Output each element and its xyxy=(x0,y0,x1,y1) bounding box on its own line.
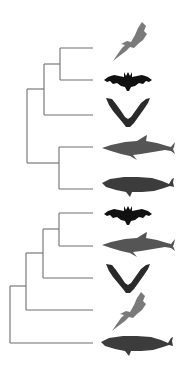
leaf-v-bat xyxy=(106,264,150,293)
bottom-tree xyxy=(10,206,175,356)
leaf-gray-bat xyxy=(112,292,146,331)
leaf-v-bat xyxy=(106,98,150,127)
leaf-whale xyxy=(102,177,174,197)
leaf-dolphin xyxy=(102,232,175,257)
whale-icon xyxy=(101,336,173,356)
top-tree xyxy=(27,22,175,197)
v-bat-icon xyxy=(106,98,150,127)
leaf-whale xyxy=(101,336,173,356)
black-bat-icon xyxy=(104,72,152,91)
leaf-black-bat xyxy=(104,206,152,225)
leaf-gray-bat xyxy=(113,22,147,61)
whale-icon xyxy=(102,177,174,197)
leaf-dolphin xyxy=(102,135,175,160)
black-bat-icon xyxy=(104,206,152,225)
tree-branches xyxy=(10,213,93,343)
gray-bat-icon xyxy=(112,292,146,331)
gray-bat-icon xyxy=(113,22,147,61)
v-bat-icon xyxy=(106,264,150,293)
leaf-black-bat xyxy=(104,72,152,91)
tree-branches xyxy=(27,48,93,189)
dolphin-icon xyxy=(102,135,175,160)
dolphin-icon xyxy=(102,232,175,257)
phylogeny-diagram xyxy=(0,0,187,377)
